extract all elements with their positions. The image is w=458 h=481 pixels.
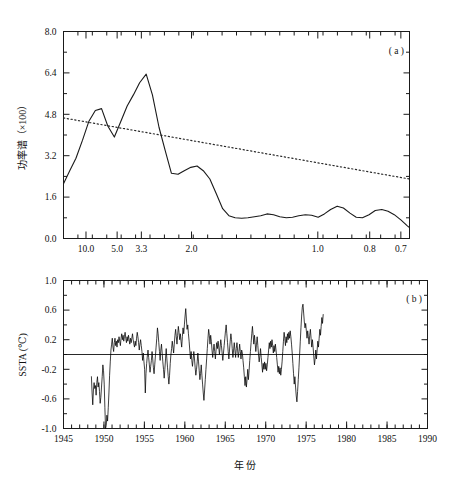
panel-b-x-tick-labels: 1945195019551960196519701975198019851990 [54,434,437,444]
panel-b-y-tick-label: -0.6 [41,394,56,404]
panel-b-y-tick-labels: -1.0-0.6-0.20.20.61.0 [41,276,56,434]
panel-a-x-tick-label: 0.7 [395,244,407,254]
panel-b-x-tick-label: 1965 [216,434,235,444]
panel-b-x-tick-label: 1985 [378,434,397,444]
panel-a-y-axis-title: 功率谱（×100） [16,100,28,171]
panel-b-x-tick-label: 1980 [337,434,356,444]
panel-a-x-tick-label: 1.0 [312,244,324,254]
red-noise-trend-line [64,118,410,179]
panel-b-x-tick-label: 1970 [256,434,275,444]
panel-b-y-tick-label: -0.2 [41,365,56,375]
panel-a-x-tick-label: 10.0 [78,244,95,254]
panel-a-y-tick-label: 4.8 [45,110,57,120]
panel-b-y-tick-label: 0.6 [45,305,57,315]
panel-b: -1.0-0.6-0.20.20.61.0 194519501955196019… [17,276,437,471]
panel-a-y-tick-label: 1.6 [45,192,57,202]
panel-b-x-tick-label: 1945 [54,434,73,444]
panel-a: 0.01.63.24.86.48.0 10.05.03.32.01.00.80.… [16,27,410,254]
panel-a-y-tick-labels: 0.01.63.24.86.48.0 [45,27,57,244]
panel-a-y-tick-label: 3.2 [45,151,57,161]
panel-a-x-tick-label: 2.0 [186,244,198,254]
panel-b-y-tick-label: -1.0 [41,424,56,434]
panel-b-x-tick-label: 1960 [175,434,194,444]
panel-a-y-tick-label: 0.0 [45,234,57,244]
panel-a-y-tick-label: 8.0 [45,27,57,37]
figure-svg: 0.01.63.24.86.48.0 10.05.03.32.01.00.80.… [0,0,458,481]
panel-b-y-axis-title: SSTA (℃) [17,333,29,376]
panel-b-y-tick-label: 1.0 [45,276,57,286]
panel-a-x-tick-label: 0.8 [364,244,376,254]
panel-b-x-tick-label: 1955 [135,434,154,444]
panel-a-y-tick-label: 6.4 [45,68,57,78]
panel-a-x-tick-label: 5.0 [111,244,123,254]
panel-b-x-axis-title: 年 份 [234,459,257,471]
figure-container: 0.01.63.24.86.48.0 10.05.03.32.01.00.80.… [0,0,458,481]
ssta-time-series-curve [91,304,323,428]
panel-b-label: ( b ) [406,294,422,305]
panel-a-label: ( a ) [389,46,404,57]
panel-a-x-tick-label: 3.3 [135,244,147,254]
panel-a-x-tick-labels: 10.05.03.32.01.00.80.7 [78,244,407,254]
panel-b-x-tick-label: 1950 [94,434,113,444]
panel-b-x-tick-label: 1990 [418,434,437,444]
power-spectrum-curve [64,74,410,227]
panel-b-y-tick-label: 0.2 [45,335,57,345]
panel-b-x-tick-label: 1975 [297,434,316,444]
